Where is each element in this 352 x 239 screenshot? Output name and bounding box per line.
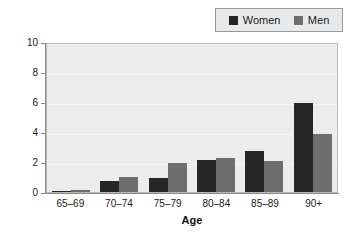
legend-item-women: Women xyxy=(229,15,281,26)
y-tick-label: 4 xyxy=(14,128,38,138)
legend-label-women: Women xyxy=(243,15,281,26)
bar-men xyxy=(119,177,138,192)
bar-women xyxy=(294,103,313,192)
bar-men xyxy=(264,161,283,192)
bar-women xyxy=(197,160,216,192)
bar-women xyxy=(149,178,168,192)
x-tick-label: 90+ xyxy=(289,196,338,212)
bar-women xyxy=(245,151,264,192)
bar-men xyxy=(216,158,235,192)
x-axis-line xyxy=(45,193,339,194)
y-tick-label: 0 xyxy=(14,188,38,198)
bar-women xyxy=(52,191,71,193)
legend-item-men: Men xyxy=(294,15,329,26)
bar-group xyxy=(144,44,192,192)
bar-group xyxy=(95,44,143,192)
x-axis-tick-labels: 65–6970–7475–7980–8485–8990+ xyxy=(46,196,338,212)
y-tick-label: 10 xyxy=(14,38,38,48)
chart-legend: Women Men xyxy=(215,8,343,32)
bar-men xyxy=(71,190,90,192)
x-tick-label: 75–79 xyxy=(143,196,192,212)
y-axis-tick xyxy=(41,193,45,194)
women-swatch-icon xyxy=(229,16,238,25)
y-axis-tick xyxy=(41,163,45,164)
y-tick-label: 8 xyxy=(14,68,38,78)
y-axis-tick xyxy=(41,73,45,74)
legend-label-men: Men xyxy=(308,15,329,26)
x-tick-label: 85–89 xyxy=(241,196,290,212)
y-axis-tick-labels: 0246810 xyxy=(10,0,38,239)
men-swatch-icon xyxy=(294,16,303,25)
plot-area xyxy=(46,43,338,193)
bar-group xyxy=(47,44,95,192)
bar-group xyxy=(192,44,240,192)
y-tick-label: 6 xyxy=(14,98,38,108)
y-axis-tick xyxy=(41,133,45,134)
y-axis-tick xyxy=(41,43,45,44)
y-axis-tick xyxy=(41,103,45,104)
x-tick-label: 65–69 xyxy=(46,196,95,212)
bar-groups xyxy=(47,44,337,192)
bar-men xyxy=(313,134,332,193)
bar-group xyxy=(240,44,288,192)
x-tick-label: 80–84 xyxy=(192,196,241,212)
bar-group xyxy=(289,44,337,192)
x-axis-title: Age xyxy=(46,214,338,226)
bar-men xyxy=(168,163,187,192)
bar-chart: Women Men Per 100 0246810 65–6970–7475–7… xyxy=(0,0,352,239)
y-tick-label: 2 xyxy=(14,158,38,168)
x-tick-label: 70–74 xyxy=(95,196,144,212)
bar-women xyxy=(100,181,119,192)
